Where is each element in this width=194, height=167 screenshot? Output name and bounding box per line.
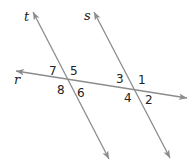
line-t-segment	[33, 12, 109, 159]
line-r-segment	[16, 71, 187, 98]
angle-label-2: 2	[145, 93, 153, 107]
line-t	[33, 12, 109, 159]
angle-label-4: 4	[124, 91, 132, 105]
line-label-t: t	[24, 9, 30, 24]
angle-label-6: 6	[77, 86, 85, 100]
angle-label-5: 5	[70, 64, 78, 78]
line-label-s: s	[84, 8, 91, 23]
angle-label-8: 8	[57, 83, 65, 97]
angle-label-3: 3	[116, 72, 124, 86]
angle-label-7: 7	[49, 64, 57, 78]
angle-label-1: 1	[138, 73, 146, 87]
parallel-lines-diagram: tsr75863142	[0, 0, 194, 167]
line-r	[16, 69, 187, 100]
line-label-r: r	[14, 72, 21, 87]
labels-layer: tsr75863142	[14, 8, 153, 107]
lines-layer	[16, 12, 187, 159]
